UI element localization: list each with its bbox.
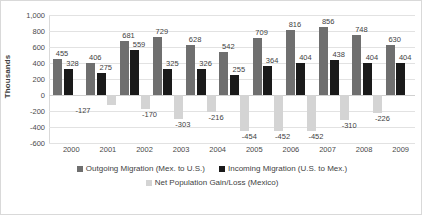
bar-value-label: 406 <box>82 53 108 62</box>
x-axis-tick: 2002 <box>125 145 165 154</box>
x-axis-tick-labels: 2000200120022003200420052006200720082009 <box>49 145 415 159</box>
gridline <box>49 143 415 144</box>
bar-outgoing <box>352 35 361 95</box>
bar-value-label: 628 <box>182 35 208 44</box>
y-axis-tick-labels: 1,0008006004002000-200-400-600 <box>15 15 47 143</box>
bar-group: 729325-303 <box>149 15 182 143</box>
y-axis-tick: 600 <box>32 43 45 52</box>
y-axis-tick: 0 <box>41 91 45 100</box>
legend-item-label: Outgoing Migration (Mex. to U.S.) <box>86 164 205 173</box>
bar-incoming <box>97 73 106 95</box>
y-axis-tick: 800 <box>32 27 45 36</box>
bar-group: 542255-454 <box>215 15 248 143</box>
bar-value-label: 856 <box>315 17 341 26</box>
legend-row-primary: Outgoing Migration (Mex. to U.S.)Incomin… <box>1 164 422 173</box>
legend-item[interactable]: Incoming Migration (U.S. to Mex.) <box>219 164 347 173</box>
bar-group: 406275 <box>82 15 115 143</box>
bar-incoming <box>296 63 305 95</box>
legend-row-secondary: Net Population Gain/Loss (Mexico) <box>1 178 422 187</box>
bar-incoming <box>197 69 206 95</box>
bar-outgoing <box>253 38 262 95</box>
bar-incoming <box>230 75 239 95</box>
legend-item[interactable]: Net Population Gain/Loss (Mexico) <box>146 178 279 187</box>
legend-swatch-icon <box>77 166 83 172</box>
bar-incoming <box>396 63 405 95</box>
bar-value-label: 542 <box>215 42 241 51</box>
migration-bar-chart: Thousands 1,0008006004002000-200-400-600… <box>0 0 422 215</box>
x-axis-tick: 2001 <box>88 145 128 154</box>
plot-area: 455328-127406275681559-170729325-3036283… <box>49 15 415 143</box>
y-axis-tick: 1,000 <box>26 11 45 20</box>
bar-value-label: 630 <box>382 35 408 44</box>
x-axis-tick: 2005 <box>234 145 274 154</box>
bar-group: 455328-127 <box>49 15 82 143</box>
x-axis-tick: 2007 <box>308 145 348 154</box>
bar-incoming <box>363 63 372 95</box>
bar-incoming <box>330 60 339 95</box>
bar-value-label: 816 <box>282 20 308 29</box>
bar-group: 816404-452 <box>282 15 315 143</box>
legend-swatch-icon <box>219 166 225 172</box>
bar-value-label: 748 <box>348 25 374 34</box>
bar-incoming <box>64 69 73 95</box>
legend-item[interactable]: Outgoing Migration (Mex. to U.S.) <box>77 164 205 173</box>
y-axis-tick: 400 <box>32 59 45 68</box>
y-axis-tick: 200 <box>32 75 45 84</box>
bar-group: 630404 <box>382 15 415 143</box>
y-axis-title-label: Thousands <box>4 54 13 98</box>
legend-item-label: Net Population Gain/Loss (Mexico) <box>155 178 279 187</box>
legend-item-label: Incoming Migration (U.S. to Mex.) <box>228 164 347 173</box>
bar-value-label: 455 <box>49 49 75 58</box>
x-axis-tick: 2000 <box>51 145 91 154</box>
x-axis-tick: 2003 <box>161 145 201 154</box>
bar-incoming <box>130 50 139 95</box>
legend-swatch-icon <box>146 180 152 186</box>
bar-incoming <box>263 66 272 95</box>
bar-value-label: 709 <box>249 28 275 37</box>
y-axis-tick: -400 <box>30 123 45 132</box>
bar-value-label: 404 <box>392 53 418 62</box>
bar-outgoing <box>286 30 295 95</box>
bar-value-label: 681 <box>116 31 142 40</box>
x-axis-tick: 2009 <box>381 145 421 154</box>
y-axis-title: Thousands <box>1 1 15 151</box>
x-axis-tick: 2008 <box>344 145 384 154</box>
bar-group: 709364-452 <box>249 15 282 143</box>
y-axis-tick: -200 <box>30 107 45 116</box>
x-axis-tick: 2006 <box>271 145 311 154</box>
bar-incoming <box>163 69 172 95</box>
bar-outgoing <box>186 45 195 95</box>
chart-legend: Outgoing Migration (Mex. to U.S.)Incomin… <box>1 164 422 192</box>
bar-group: 748404-226 <box>348 15 381 143</box>
bar-group: 856438-310 <box>315 15 348 143</box>
x-axis-tick: 2004 <box>198 145 238 154</box>
y-axis-tick: -600 <box>30 139 45 148</box>
bar-group: 628326-216 <box>182 15 215 143</box>
bar-outgoing <box>319 27 328 95</box>
bar-group: 681559-170 <box>116 15 149 143</box>
bar-value-label: 729 <box>149 27 175 36</box>
